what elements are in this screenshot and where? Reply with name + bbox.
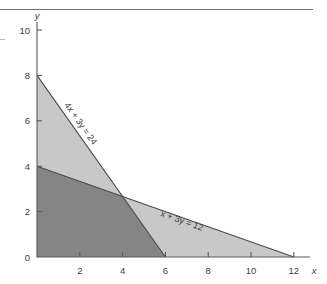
y-tick-label-6: 6 (25, 115, 30, 126)
x-tick-label-8: 8 (206, 265, 211, 276)
x-tick-label-10: 10 (246, 265, 257, 276)
y-axis-label: y (34, 10, 41, 21)
x-tick-label-12: 12 (289, 265, 300, 276)
y-tick-label-2: 2 (25, 206, 30, 217)
x-tick-label-2: 2 (77, 265, 82, 276)
y-tick-label-10: 10 (19, 25, 30, 36)
x-axis-label: x (311, 265, 318, 276)
graph-canvas: 10 8 6 4 2 0 2 4 6 8 10 12 y x 4x + 3y =… (0, 0, 327, 284)
x-tick-label-4: 4 (120, 265, 125, 276)
y-tick-label-4: 4 (25, 161, 30, 172)
y-tick-label-0: 0 (25, 252, 30, 263)
inequality-graph-figure: 10 8 6 4 2 0 2 4 6 8 10 12 y x 4x + 3y =… (0, 0, 327, 284)
x-tick-label-6: 6 (163, 265, 168, 276)
y-tick-label-8: 8 (25, 70, 30, 81)
